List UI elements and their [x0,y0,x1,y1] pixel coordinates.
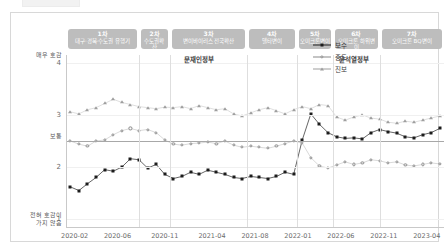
wave-separator [380,55,381,227]
data-point-marker [386,121,390,124]
y-axis-top-label: 매우 호감 [16,51,62,59]
x-tick-label: 2022-01 [284,232,311,240]
data-point-marker [214,108,218,111]
axis-line-bottom [66,227,444,228]
data-point-marker [412,136,415,139]
y-tick-label: 4 [57,59,61,67]
data-point-marker [154,107,158,110]
data-point-marker [120,101,124,104]
gridline [66,115,444,116]
y-axis-bottom-label: 전혀 호감이 가지 않음 [16,211,62,226]
data-point-marker [129,157,132,160]
data-point-marker [94,106,98,109]
legend-item[interactable]: 진보 [313,63,377,75]
data-point-marker [172,177,175,180]
data-point-marker [180,175,183,178]
data-point-marker [309,107,313,110]
gridline [66,63,444,64]
data-point-marker [103,102,107,105]
wave-number: 1차 [69,31,136,38]
wave-separator [139,55,140,227]
y-tick-label: 2 [57,163,61,171]
data-point-marker [223,173,226,176]
plot-area: 4321 2020-022020-062020-112021-042021-08… [66,55,444,227]
data-point-marker [395,122,399,125]
x-tick-label: 2020-06 [104,232,131,240]
legend-label: 보수 [335,40,347,50]
data-point-marker [403,120,407,123]
wave-number: 2차 [142,31,167,38]
legend-item[interactable]: 보수 [313,39,377,51]
data-point-marker [335,135,338,138]
wave-label-box: 3차변이바이러스 전국확산 [172,29,245,49]
data-point-marker [112,170,115,173]
wave-name: 대구·경북·수도권 유행기 [69,38,136,44]
data-point-marker [241,177,244,180]
data-point-marker [68,110,72,113]
data-point-marker [163,173,166,176]
reference-line [66,141,444,142]
data-point-marker [387,130,390,133]
data-point-marker [163,105,167,108]
data-point-marker [198,173,201,176]
data-point-marker [369,131,372,134]
data-point-marker [275,175,278,178]
wave-number: 5차 [300,31,330,38]
legend-label: 진보 [335,64,347,74]
data-point-marker [395,132,398,135]
wave-separator [170,55,171,227]
data-point-marker [266,106,270,109]
data-point-marker [206,169,209,172]
data-point-marker [344,137,347,140]
data-point-marker [95,176,98,179]
data-point-marker [103,168,106,171]
legend-marker-icon [313,64,331,74]
data-point-marker [327,131,330,134]
series-line [70,128,439,168]
data-point-marker [369,116,373,119]
legend-item[interactable]: 중도 [313,51,377,63]
data-point-marker [430,131,433,134]
legend-marker-icon [313,52,331,62]
data-point-marker [421,133,424,136]
wave-label-box: 4차델타변이 [249,29,295,49]
data-point-marker [404,135,407,138]
data-point-marker [77,189,80,192]
data-point-marker [249,175,252,178]
y-axis-mid-label: 보통 [16,132,62,140]
wave-name: 델타변이 [250,38,294,44]
data-point-marker [171,106,175,109]
y-tick-label: 3 [57,111,61,119]
data-point-marker [274,109,278,112]
data-point-marker [206,106,210,109]
data-point-marker [352,136,355,139]
wave-label-box: 1차대구·경북·수도권 유행기 [68,29,137,49]
data-point-marker [85,108,89,111]
data-point-marker [111,98,115,101]
x-tick-label: 2022-06 [327,232,354,240]
data-point-marker [361,137,364,140]
figure-root: 4321 2020-022020-062020-112021-042021-08… [0,0,447,249]
data-point-marker [189,107,193,110]
data-point-marker [284,171,287,174]
x-tick-label: 2022-11 [370,232,397,240]
x-tick-label: 2021-08 [241,232,268,240]
data-point-marker [249,111,253,114]
axis-line-left [66,55,67,227]
data-point-marker [292,108,296,111]
wave-number: 6차 [336,31,376,38]
data-point-marker [146,106,150,109]
page-artifact-strip [22,0,80,7]
x-tick-label: 2020-02 [61,232,88,240]
gridline [66,219,444,220]
data-point-marker [180,105,184,108]
data-point-marker [429,116,433,119]
data-point-marker [326,104,330,107]
data-point-marker [223,107,227,110]
wave-label-box: 2차수도권확산 [141,29,168,49]
data-point-marker [215,171,218,174]
chart-card: 4321 2020-022020-062020-112021-042021-08… [10,12,439,242]
wave-separator [333,55,334,227]
wave-separator [297,55,298,227]
data-point-marker [155,163,158,166]
